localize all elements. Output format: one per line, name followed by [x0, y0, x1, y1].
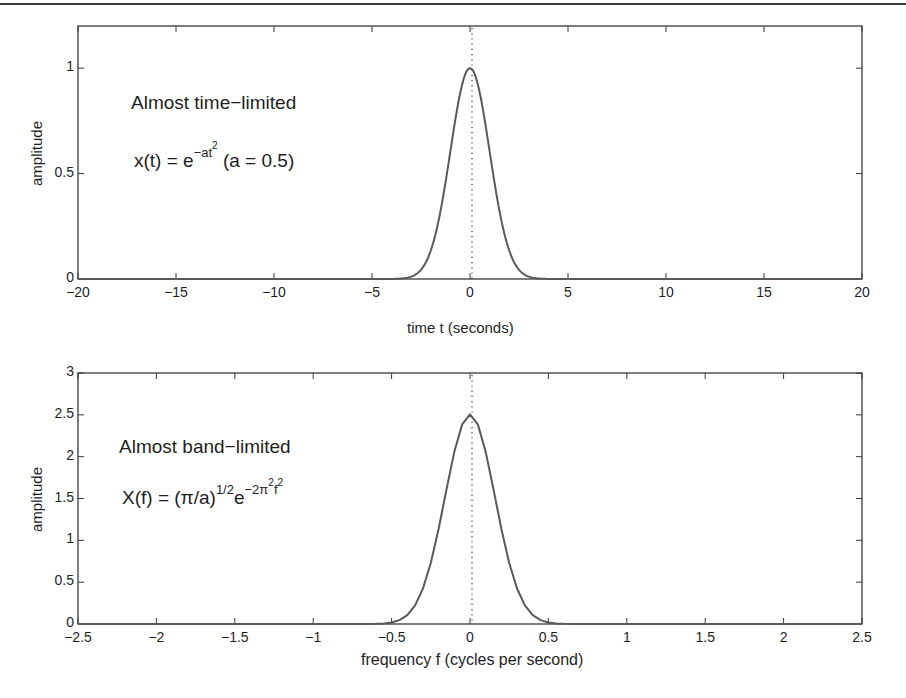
y-tick-label: 0.5	[34, 572, 74, 588]
bottom-y-axis-label: amplitude	[28, 467, 45, 532]
top-formula-exponent: −at	[194, 145, 212, 160]
bottom-formula-f-power: 2	[278, 477, 284, 488]
y-tick-label: 0	[34, 614, 74, 630]
x-tick-label: 20	[854, 284, 870, 300]
top-formula-base: x(t) = e	[134, 150, 194, 171]
bottom-formula-pi-power: 2	[268, 477, 274, 488]
bottom-formula-f: f	[274, 482, 278, 497]
bottom-annotation-formula: X(f) = (π/a)1/2e−2π2f2	[122, 482, 283, 509]
y-tick-label: 0	[34, 269, 74, 285]
x-tick-label: 10	[658, 284, 674, 300]
bottom-formula-exponent: −2π	[245, 482, 269, 497]
x-tick-label: −1.5	[221, 629, 249, 645]
x-tick-label: −2	[148, 629, 164, 645]
bottom-formula-base: X(f) = (π/a)	[122, 487, 216, 508]
x-tick-label: 15	[756, 284, 772, 300]
bottom-formula-exponent-half: 1/2	[216, 482, 234, 497]
x-tick-label: 1	[623, 629, 631, 645]
y-tick-label: 1	[34, 530, 74, 546]
y-tick-label: 2	[34, 447, 74, 463]
y-tick-label: 3	[34, 363, 74, 379]
top-formula-tail: (a = 0.5)	[218, 150, 295, 171]
bottom-formula-e: e	[234, 487, 245, 508]
bottom-annotation-title: Almost band−limited	[119, 436, 291, 458]
x-tick-label: −10	[262, 284, 286, 300]
x-tick-label: 0.5	[539, 629, 558, 645]
x-tick-label: 1.5	[695, 629, 714, 645]
x-tick-label: −2.5	[64, 629, 92, 645]
x-tick-label: −20	[66, 284, 90, 300]
top-formula-exponent-power: 2	[212, 140, 218, 151]
top-annotation-title: Almost time−limited	[131, 92, 296, 114]
top-x-axis-label: time t (seconds)	[407, 319, 514, 336]
bottom-x-axis-label: frequency f (cycles per second)	[361, 651, 583, 669]
y-tick-label: 2.5	[34, 405, 74, 421]
top-y-axis-label: amplitude	[28, 121, 45, 186]
x-tick-label: 0	[466, 629, 474, 645]
y-tick-label: 1	[34, 58, 74, 74]
x-tick-label: 2.5	[852, 629, 871, 645]
x-tick-label: 5	[564, 284, 572, 300]
x-tick-label: −1	[305, 629, 321, 645]
top-annotation-formula: x(t) = e−at2 (a = 0.5)	[134, 145, 294, 172]
x-tick-label: −0.5	[378, 629, 406, 645]
x-tick-label: −5	[364, 284, 380, 300]
x-tick-label: 2	[780, 629, 788, 645]
x-tick-label: −15	[164, 284, 188, 300]
x-tick-label: 0	[466, 284, 474, 300]
